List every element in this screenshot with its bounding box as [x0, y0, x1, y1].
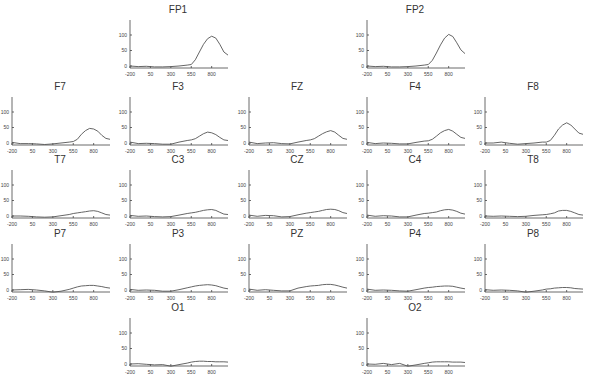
y-tick-label: 0: [361, 140, 364, 146]
line-plot: 050100-20050300550800: [118, 228, 238, 302]
y-tick-label: 50: [121, 271, 127, 277]
x-tick-label: 550: [542, 295, 551, 301]
waveform-line: [367, 362, 465, 366]
x-tick-label: 50: [385, 71, 391, 77]
y-tick-label: 50: [476, 197, 482, 203]
y-tick-label: 50: [358, 197, 364, 203]
y-tick-label: 0: [243, 213, 246, 219]
x-tick-label: -200: [362, 369, 372, 375]
x-tick-label: -200: [362, 71, 372, 77]
y-tick-label: 100: [1, 182, 10, 188]
y-tick-label: 0: [124, 213, 127, 219]
waveform-line: [367, 286, 465, 291]
x-tick-label: 800: [444, 71, 453, 77]
x-tick-label: -200: [7, 295, 17, 301]
y-tick-label: 0: [361, 287, 364, 293]
line-plot: 050100-20050300550800: [473, 154, 593, 228]
x-tick-label: 50: [148, 295, 154, 301]
y-tick-label: 50: [3, 197, 9, 203]
waveform-line: [130, 36, 228, 67]
panel-f7: F7050100-20050300550800: [0, 81, 120, 155]
y-tick-label: 0: [479, 140, 482, 146]
y-tick-label: 50: [3, 124, 9, 130]
y-tick-label: 0: [124, 140, 127, 146]
panel-fz: FZ050100-20050300550800: [237, 81, 357, 155]
y-tick-label: 100: [356, 109, 365, 115]
y-tick-label: 0: [6, 213, 9, 219]
y-tick-label: 50: [358, 124, 364, 130]
x-tick-label: 50: [385, 369, 391, 375]
panel-t7: T7050100-20050300550800: [0, 154, 120, 228]
x-tick-label: 50: [385, 221, 391, 227]
waveform-line: [485, 123, 583, 144]
x-tick-label: 550: [187, 71, 196, 77]
y-tick-label: 0: [6, 140, 9, 146]
x-tick-label: 550: [187, 295, 196, 301]
line-plot: 050100-20050300550800: [118, 81, 238, 155]
panel-t8: T8050100-20050300550800: [473, 154, 593, 228]
y-tick-label: 0: [243, 140, 246, 146]
x-tick-label: 800: [89, 295, 98, 301]
y-tick-label: 0: [243, 287, 246, 293]
y-tick-label: 0: [479, 287, 482, 293]
y-tick-label: 50: [240, 271, 246, 277]
x-tick-label: 50: [148, 369, 154, 375]
y-tick-label: 100: [474, 109, 483, 115]
line-plot: 050100-20050300550800: [355, 154, 475, 228]
x-tick-label: 50: [267, 295, 273, 301]
panel-f4: F4050100-20050300550800: [355, 81, 475, 155]
x-tick-label: 800: [444, 221, 453, 227]
panel-p3: P3050100-20050300550800: [118, 228, 238, 302]
x-tick-label: 50: [385, 295, 391, 301]
y-tick-label: 100: [1, 256, 10, 262]
y-tick-label: 100: [119, 182, 128, 188]
x-tick-label: 550: [306, 295, 315, 301]
x-tick-label: 550: [187, 369, 196, 375]
panel-c3: C3050100-20050300550800: [118, 154, 238, 228]
waveform-line: [249, 131, 347, 144]
y-tick-label: 100: [356, 330, 365, 336]
y-tick-label: 50: [121, 197, 127, 203]
x-tick-label: -200: [125, 369, 135, 375]
x-tick-label: 50: [503, 295, 509, 301]
x-tick-label: 50: [503, 221, 509, 227]
y-tick-label: 50: [240, 124, 246, 130]
x-tick-label: 800: [444, 295, 453, 301]
panel-fp2: FP2050100-20050300550800: [355, 4, 475, 78]
line-plot: 050100-20050300550800: [0, 228, 120, 302]
line-plot: 050100-20050300550800: [0, 154, 120, 228]
x-tick-label: 800: [207, 221, 216, 227]
waveform-line: [485, 210, 583, 216]
x-tick-label: 550: [306, 221, 315, 227]
x-tick-label: 300: [167, 71, 176, 77]
line-plot: 050100-20050300550800: [118, 4, 238, 78]
x-tick-label: 300: [404, 369, 413, 375]
line-plot: 050100-20050300550800: [237, 81, 357, 155]
y-tick-label: 100: [356, 256, 365, 262]
y-tick-label: 100: [356, 32, 365, 38]
y-tick-label: 100: [474, 182, 483, 188]
y-tick-label: 50: [358, 47, 364, 53]
panel-c4: C4050100-20050300550800: [355, 154, 475, 228]
x-tick-label: 50: [30, 221, 36, 227]
x-tick-label: 300: [167, 369, 176, 375]
x-tick-label: 800: [89, 221, 98, 227]
panel-f3: F3050100-20050300550800: [118, 81, 238, 155]
y-tick-label: 0: [124, 287, 127, 293]
x-tick-label: 550: [187, 221, 196, 227]
x-tick-label: 50: [30, 295, 36, 301]
x-tick-label: 300: [404, 295, 413, 301]
panel-p4: P4050100-20050300550800: [355, 228, 475, 302]
x-tick-label: 800: [326, 295, 335, 301]
x-tick-label: 800: [562, 221, 571, 227]
y-tick-label: 50: [121, 124, 127, 130]
waveform-line: [367, 129, 465, 144]
x-tick-label: 300: [286, 221, 295, 227]
x-tick-label: -200: [125, 221, 135, 227]
y-tick-label: 0: [361, 361, 364, 367]
waveform-line: [367, 210, 465, 217]
x-tick-label: 300: [522, 221, 531, 227]
panel-cz: CZ050100-20050300550800: [237, 154, 357, 228]
panel-fp1: FP1050100-20050300550800: [118, 4, 238, 78]
waveform-line: [130, 361, 228, 366]
